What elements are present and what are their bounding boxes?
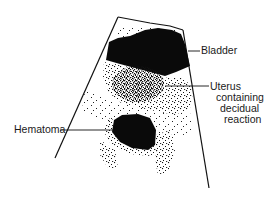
hematoma-label: Hematoma [14,124,65,134]
uterus-label-line2: containing [216,92,264,102]
bladder-label: Bladder [201,45,237,55]
uterus-label-line4: reaction [224,114,261,124]
uterus-inner [130,79,154,97]
uterus-label-line3: decidual [220,103,259,113]
uterus-label-line1: Uterus [210,81,241,91]
